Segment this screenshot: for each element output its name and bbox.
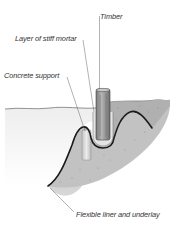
label-mortar: Layer of stiff mortar [15, 35, 77, 42]
label-concrete-support: Concrete support [4, 72, 59, 79]
label-timber: Timber [100, 13, 122, 20]
diagram: Timber Layer of stiff mortar Concrete su… [0, 0, 175, 227]
label-flexible-liner: Flexible liner and underlay [76, 211, 160, 218]
timber-post [96, 89, 110, 140]
